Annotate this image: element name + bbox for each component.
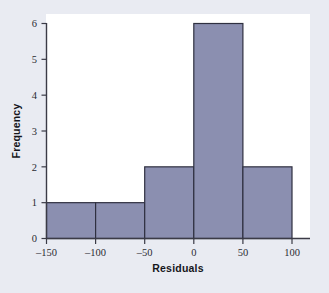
- bars-group: [47, 24, 293, 239]
- histogram-bar: [145, 167, 194, 239]
- y-tick-label: 5: [32, 54, 37, 65]
- y-tick-label: 3: [32, 126, 37, 137]
- x-axis-title: Residuals: [152, 262, 203, 274]
- x-axis-ticks: –150–100–50050100: [35, 239, 300, 259]
- x-tick-label: –50: [136, 247, 153, 258]
- y-axis-ticks: 0123456: [32, 18, 47, 244]
- y-tick-label: 2: [32, 162, 37, 173]
- y-tick-label: 1: [32, 197, 37, 208]
- x-tick-label: 100: [284, 247, 300, 258]
- histogram-bar: [243, 167, 292, 239]
- histogram-figure: 0123456 –150–100–50050100 Residuals Freq…: [0, 0, 329, 293]
- y-tick-label: 0: [32, 233, 37, 244]
- histogram-bar: [194, 24, 243, 239]
- x-tick-label: –100: [84, 247, 106, 258]
- x-tick-label: 50: [238, 247, 249, 258]
- y-tick-label: 6: [32, 18, 37, 29]
- histogram-bar: [47, 203, 96, 239]
- x-tick-label: 0: [191, 247, 196, 258]
- y-tick-label: 4: [32, 90, 38, 101]
- histogram-bar: [96, 203, 145, 239]
- y-axis-title: Frequency: [10, 104, 22, 159]
- x-tick-label: –150: [35, 247, 57, 258]
- histogram-chart: 0123456 –150–100–50050100 Residuals Freq…: [0, 0, 329, 293]
